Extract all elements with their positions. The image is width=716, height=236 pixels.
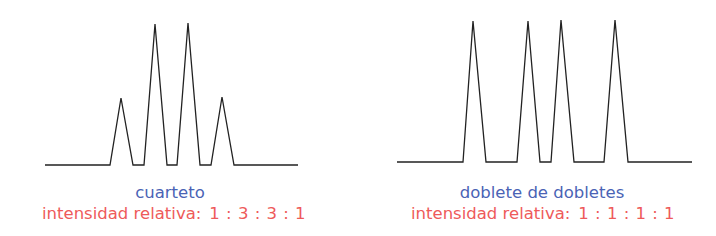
dd-ratio-values: 1 : 1 : 1 : 1 [578,204,675,223]
dd-title: doblete de dobletes [412,183,672,203]
quartet-ratio-values: 1 : 3 : 3 : 1 [209,204,306,223]
quartet-ratio-caption: intensidad relativa: [42,204,201,223]
doublet-of-doublets-spectrum [397,20,692,162]
quartet-title: cuarteto [70,183,270,203]
quartet-spectrum [45,23,298,165]
quartet-ratio-line: intensidad relativa:1 : 3 : 3 : 1 [28,204,320,224]
dd-ratio-line: intensidad relativa:1 : 1 : 1 : 1 [394,204,692,224]
dd-ratio-caption: intensidad relativa: [411,204,570,223]
